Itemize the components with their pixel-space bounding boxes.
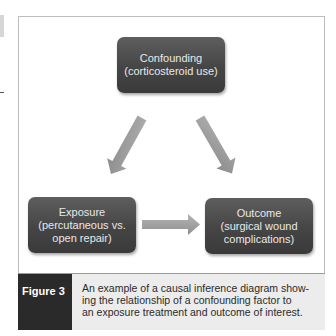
page-edge-tick <box>0 92 4 93</box>
node-confounding-title: Confounding <box>140 52 202 65</box>
caption-line-2: ing the relationship of a confounding fa… <box>82 294 321 306</box>
node-exposure-title: Exposure <box>59 206 105 219</box>
caption-line-1: An example of a causal inference diagram… <box>82 282 321 294</box>
node-outcome-subtitle-line2: complications) <box>224 233 294 246</box>
node-exposure: Exposure (percutaneous vs. open repair) <box>28 197 136 253</box>
node-outcome-subtitle-line1: (surgical wound <box>220 220 297 233</box>
caption-line-3: an exposure treatment and outcome of int… <box>82 306 321 318</box>
figure-caption: Figure 3 An example of a causal inferenc… <box>18 273 325 330</box>
node-exposure-subtitle-line2: open repair) <box>52 232 111 245</box>
page-edge-mark <box>0 15 4 37</box>
node-confounding-subtitle: (corticosteroid use) <box>124 65 218 78</box>
figure-label: Figure 3 <box>18 274 72 330</box>
caption-text: An example of a causal inference diagram… <box>72 274 325 330</box>
node-confounding: Confounding (corticosteroid use) <box>117 37 225 93</box>
node-outcome-title: Outcome <box>237 207 282 220</box>
node-outcome: Outcome (surgical wound complications) <box>205 198 313 254</box>
node-exposure-subtitle-line1: (percutaneous vs. <box>38 219 125 232</box>
